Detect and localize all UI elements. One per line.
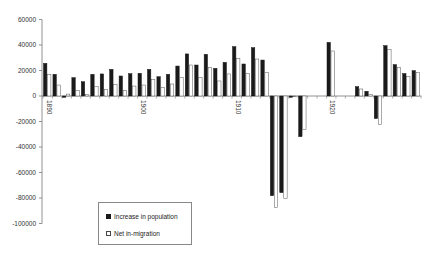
bar-net-in-migration [255, 59, 258, 96]
y-tick-label: 60000 [18, 16, 36, 23]
bar-increase-in-population [289, 96, 292, 97]
bar-net-in-migration [180, 77, 183, 96]
y-tick-label: -100000 [12, 220, 36, 227]
bar-increase-in-population [270, 96, 273, 196]
legend-item-increase: Increase in population [106, 213, 178, 220]
bar-net-in-migration [85, 95, 88, 96]
y-tick-label: 20000 [18, 67, 36, 74]
bar-increase-in-population [280, 96, 283, 193]
bar-net-in-migration [57, 85, 60, 96]
bar-increase-in-population [261, 60, 264, 96]
bar-net-in-migration [265, 72, 268, 96]
bar-net-in-migration [237, 58, 240, 96]
bar-net-in-migration [199, 77, 202, 96]
legend-label: Net in-migration [114, 230, 160, 237]
bar-net-in-migration [397, 68, 400, 96]
bar-net-in-migration [303, 96, 306, 129]
bars [44, 42, 420, 207]
bar-net-in-migration [378, 96, 381, 125]
bar-increase-in-population [147, 69, 150, 96]
bar-increase-in-population [44, 63, 47, 96]
bar-net-in-migration [95, 87, 98, 96]
bar-increase-in-population [214, 68, 217, 96]
bar-net-in-migration [274, 96, 277, 207]
y-tick-label: -40000 [16, 143, 37, 150]
bar-net-in-migration [284, 96, 287, 198]
bar-increase-in-population [384, 46, 387, 96]
y-tick-label: 0 [32, 92, 36, 99]
bar-net-in-migration [407, 77, 410, 96]
bar-increase-in-population [129, 74, 132, 96]
x-tick-label: 1920 [329, 100, 336, 115]
bar-increase-in-population [100, 74, 103, 96]
legend-label: Increase in population [114, 213, 178, 220]
bar-net-in-migration [161, 87, 164, 96]
bar-net-in-migration [359, 89, 362, 96]
bar-increase-in-population [62, 96, 65, 97]
bar-increase-in-population [242, 64, 245, 96]
filled-square-icon [106, 214, 111, 219]
bar-increase-in-population [185, 54, 188, 96]
bar-net-in-migration [369, 95, 372, 96]
bar-net-in-migration [218, 81, 221, 96]
bar-increase-in-population [233, 47, 236, 96]
hollow-square-icon [106, 231, 111, 236]
bar-increase-in-population [72, 78, 75, 96]
x-tick-label: 1890 [46, 100, 53, 115]
bar-increase-in-population [412, 71, 415, 96]
bar-net-in-migration [123, 91, 126, 96]
y-axis: 6000040000200000-20000-40000-60000-80000… [12, 16, 42, 227]
bar-increase-in-population [138, 73, 141, 96]
bar-increase-in-population [119, 76, 122, 96]
bar-increase-in-population [251, 48, 254, 96]
bar-increase-in-population [195, 65, 198, 96]
bar-net-in-migration [388, 50, 391, 96]
y-tick-label: -60000 [16, 169, 37, 176]
bar-increase-in-population [166, 74, 169, 96]
bar-net-in-migration [331, 51, 334, 96]
bar-increase-in-population [403, 74, 406, 96]
bar-net-in-migration [208, 67, 211, 96]
bar-increase-in-population [110, 69, 113, 96]
bar-net-in-migration [151, 79, 154, 96]
bar-net-in-migration [142, 85, 145, 96]
y-tick-label: -20000 [16, 118, 37, 125]
x-tick-label: 1910 [235, 100, 242, 115]
bar-increase-in-population [81, 82, 84, 96]
bar-increase-in-population [157, 77, 160, 96]
bar-increase-in-population [393, 65, 396, 96]
bar-net-in-migration [246, 73, 249, 96]
bar-net-in-migration [227, 74, 230, 96]
bar-net-in-migration [416, 72, 419, 96]
bar-net-in-migration [189, 65, 192, 96]
y-tick-label: -80000 [16, 194, 37, 201]
legend: Increase in population Net in-migration [98, 202, 192, 245]
bar-increase-in-population [365, 91, 368, 96]
bar-increase-in-population [53, 74, 56, 96]
bar-net-in-migration [170, 84, 173, 96]
bar-increase-in-population [176, 66, 179, 96]
bar-chart: 6000040000200000-20000-40000-60000-80000… [0, 0, 430, 262]
bar-increase-in-population [299, 96, 302, 137]
bar-net-in-migration [293, 96, 296, 97]
x-axis: 1890190019101920 [42, 96, 422, 115]
bar-increase-in-population [204, 54, 207, 96]
bar-net-in-migration [114, 84, 117, 96]
bar-net-in-migration [133, 86, 136, 96]
bar-net-in-migration [104, 89, 107, 96]
bar-net-in-migration [76, 91, 79, 96]
bar-increase-in-population [355, 87, 358, 96]
y-tick-label: 40000 [18, 41, 36, 48]
bar-net-in-migration [48, 74, 51, 96]
x-tick-label: 1900 [140, 100, 147, 115]
bar-increase-in-population [327, 42, 330, 96]
bar-increase-in-population [223, 62, 226, 96]
bar-increase-in-population [374, 96, 377, 119]
legend-item-migration: Net in-migration [106, 230, 160, 237]
bar-net-in-migration [66, 94, 69, 96]
bar-increase-in-population [91, 74, 94, 96]
